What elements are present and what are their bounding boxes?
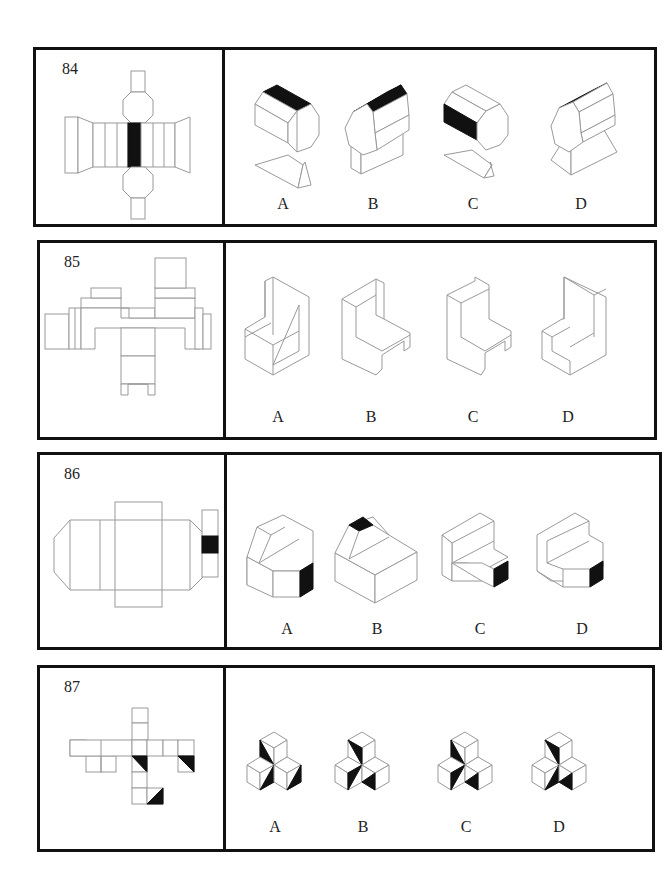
question-84-panel: 84 A [33,47,657,227]
option-c-figure [442,80,522,180]
panel-divider [222,50,225,224]
option-label: C [458,195,488,213]
option-label: A [263,408,293,426]
panel-divider [223,668,226,849]
option-label: C [458,408,488,426]
panel-divider [223,243,226,437]
option-label: B [356,408,386,426]
net-figure-85 [40,258,220,408]
option-label: B [362,620,392,638]
option-d-figure [549,80,629,180]
question-86-panel: 86 A [37,452,662,650]
option-d-figure [532,730,592,790]
option-label: A [260,818,290,836]
option-label: D [566,195,596,213]
option-c-figure [438,730,498,790]
option-label: D [553,408,583,426]
option-a-figure [243,275,313,370]
option-label: C [465,620,495,638]
option-d-figure [540,275,615,370]
question-number: 86 [64,465,80,483]
option-label: A [272,620,302,638]
option-d-figure [535,507,615,597]
option-a-figure [245,507,325,587]
option-b-figure [343,80,423,180]
question-85-panel: 85 A [37,240,657,440]
net-figure-86 [48,510,228,610]
option-label: D [544,818,574,836]
option-b-figure [340,275,415,370]
option-label: D [567,620,597,638]
net-figure-84 [61,65,201,215]
option-b-figure [333,507,423,597]
question-number: 87 [64,678,80,696]
net-figure-87 [70,708,210,828]
option-b-figure [335,730,395,790]
option-c-figure [445,275,520,370]
option-label: A [268,195,298,213]
option-label: B [358,195,388,213]
option-a-figure [253,80,333,180]
option-label: C [451,818,481,836]
option-c-figure [440,507,520,597]
option-label: B [348,818,378,836]
question-87-panel: 87 [37,665,655,852]
option-a-figure [247,730,307,790]
